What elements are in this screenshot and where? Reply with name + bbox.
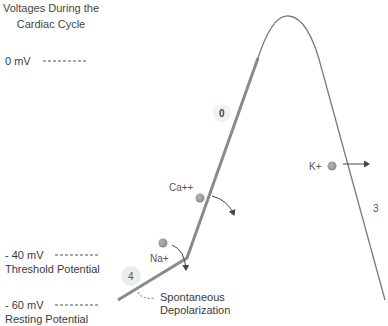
phase-3-label: 3 [373, 202, 379, 215]
spontaneous-pointer [138, 292, 155, 298]
k-ion-dot [328, 162, 337, 171]
phase-4-0-curve [118, 58, 258, 300]
resting-potential-label: Resting Potential [5, 313, 88, 326]
spontaneous-depolarization-label: Spontaneous Depolarization [160, 291, 230, 317]
na-ion-dot [159, 239, 168, 248]
resting-mv-label: - 60 mV [5, 299, 44, 312]
phase-0-label: 0 [219, 107, 225, 120]
zero-mv-label: 0 mV [5, 55, 31, 68]
annotation-line-1: Spontaneous [160, 291, 230, 304]
action-potential-diagram [0, 0, 388, 326]
na-ion-label: Na+ [150, 252, 169, 265]
ca-ion-label: Ca++ [169, 181, 193, 194]
k-ion-label: K+ [309, 160, 322, 173]
annotation-line-2: Depolarization [160, 304, 230, 317]
phase-4-label: 4 [128, 270, 134, 283]
threshold-mv-label: - 40 mV [5, 249, 44, 262]
ca-arrow-icon [212, 196, 234, 215]
ca-ion-dot [196, 194, 205, 203]
peak-repolarization-curve [257, 16, 385, 300]
threshold-potential-label: Threshold Potential [5, 263, 100, 276]
